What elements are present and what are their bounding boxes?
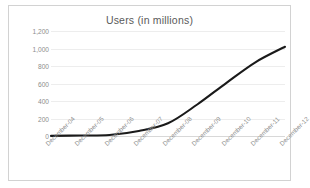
y-tick-label-1000: 1,000 (13, 45, 49, 52)
y-tick-label-600: 600 (13, 80, 49, 87)
y-tick-label-200: 200 (13, 115, 49, 122)
chart-container: Users (in millions) 02004006008001,0001,… (8, 5, 291, 181)
x-axis-tick-labels: December-04December-05December-06Decembe… (51, 6, 285, 182)
x-tick-label-5: December-09 (190, 115, 222, 147)
y-tick-label-800: 800 (13, 63, 49, 70)
x-tick-label-1: December-05 (73, 115, 105, 147)
x-tick-label-6: December-10 (220, 115, 252, 147)
x-tick-label-3: December-07 (132, 115, 164, 147)
y-axis-tick-labels: 02004006008001,0001,200 (9, 6, 49, 182)
x-tick-label-4: December-08 (161, 115, 193, 147)
x-tick-label-2: December-06 (103, 115, 135, 147)
x-tick-label-8: December-12 (278, 115, 300, 147)
y-tick-label-400: 400 (13, 98, 49, 105)
y-tick-label-0: 0 (13, 133, 49, 140)
x-tick-label-7: December-11 (249, 115, 281, 147)
y-tick-label-1200: 1,200 (13, 28, 49, 35)
plot-area: 02004006008001,0001,200 December-04Decem… (9, 6, 292, 182)
